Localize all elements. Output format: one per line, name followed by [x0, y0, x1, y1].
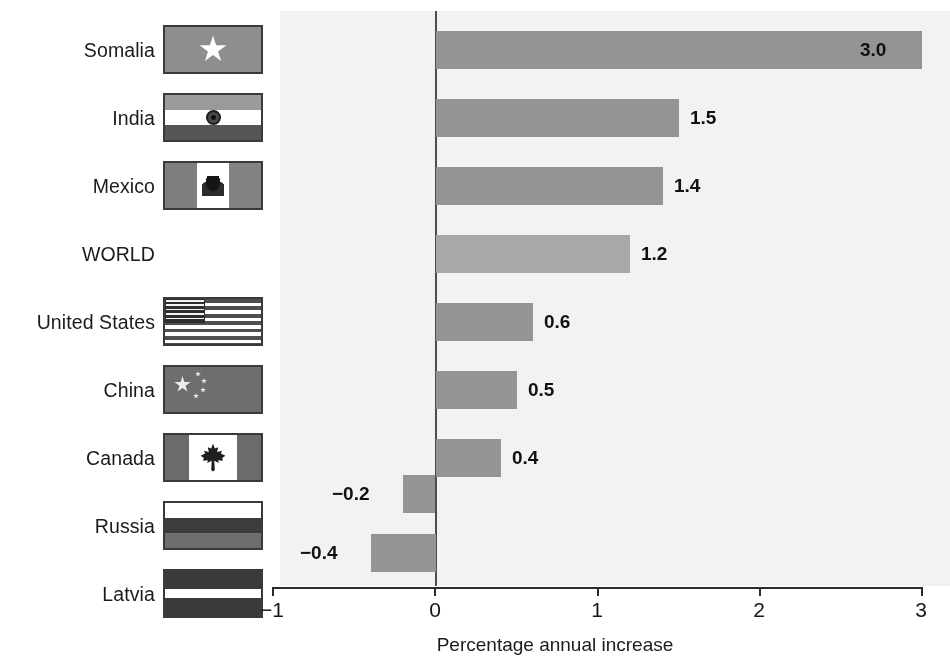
- chakra-shape: [206, 110, 221, 125]
- flag-icon-canada: [163, 433, 263, 482]
- bar-russia: [403, 475, 435, 513]
- bar-value-canada: 0.4: [512, 439, 538, 477]
- category-label-world: WORLD: [0, 229, 155, 279]
- x-axis-tick: [759, 587, 761, 596]
- bar-value-united-states: 0.6: [544, 303, 570, 341]
- bar-value-russia: −0.2: [332, 475, 370, 513]
- canton-shape: [165, 299, 205, 323]
- category-label-latvia: Latvia: [0, 569, 155, 619]
- bar-value-world: 1.2: [641, 235, 667, 273]
- bar-china: [436, 371, 517, 409]
- flag-icon-somalia: [163, 25, 263, 74]
- flag-icon-united-states: [163, 297, 263, 346]
- x-axis-title: Percentage annual increase: [437, 634, 674, 656]
- category-label-mexico: Mexico: [0, 161, 155, 211]
- category-label-united-states: United States: [0, 297, 155, 347]
- x-axis-tick: [434, 587, 436, 596]
- x-axis-tick: [597, 587, 599, 596]
- chart-row: Russia: [0, 501, 950, 551]
- x-axis-tick: [921, 587, 923, 596]
- x-axis-tick: [272, 587, 274, 596]
- flag-icon-india: [163, 93, 263, 142]
- x-axis-tick-label: 0: [405, 598, 465, 622]
- bar-world: [436, 235, 630, 273]
- bar-latvia: [371, 534, 436, 572]
- flag-icon-china: [163, 365, 263, 414]
- bar-value-china: 0.5: [528, 371, 554, 409]
- bar-india: [436, 99, 679, 137]
- category-label-india: India: [0, 93, 155, 143]
- chart-row: Latvia: [0, 569, 950, 619]
- x-axis-tick-label: 2: [729, 598, 789, 622]
- bar-canada: [436, 439, 501, 477]
- bar-value-india: 1.5: [690, 99, 716, 137]
- eagle-emblem-shape: [202, 176, 224, 196]
- category-label-china: China: [0, 365, 155, 415]
- x-axis-tick-label: 3: [891, 598, 950, 622]
- star-shape: [174, 376, 191, 393]
- x-axis-title-wrapper: Percentage annual increase: [0, 634, 950, 656]
- bar-chart-figure: Somalia 3.0 India 1.5 Mexico 1.4 WORLD: [0, 0, 950, 669]
- bar-value-somalia: 3.0: [860, 31, 886, 69]
- bar-somalia: [436, 31, 922, 69]
- flag-icon-mexico: [163, 161, 263, 210]
- x-axis-tick-label: −1: [242, 598, 302, 622]
- bar-value-mexico: 1.4: [674, 167, 700, 205]
- bar-value-latvia: −0.4: [300, 534, 338, 572]
- category-label-canada: Canada: [0, 433, 155, 483]
- category-label-russia: Russia: [0, 501, 155, 551]
- category-label-somalia: Somalia: [0, 25, 155, 75]
- bar-mexico: [436, 167, 663, 205]
- bar-united-states: [436, 303, 533, 341]
- flag-icon-russia: [163, 501, 263, 550]
- star-shape: [199, 36, 227, 64]
- x-axis-tick-label: 1: [567, 598, 627, 622]
